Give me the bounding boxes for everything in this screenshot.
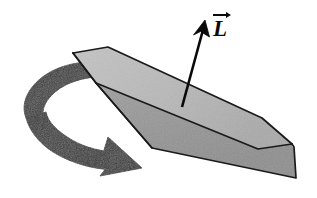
vector-arrow-accent-icon xyxy=(212,11,227,18)
physics-figure: L xyxy=(0,0,317,198)
disk-angular-momentum-illustration xyxy=(0,0,317,198)
angular-momentum-symbol: L xyxy=(212,17,227,40)
angular-momentum-label: L xyxy=(212,11,227,40)
